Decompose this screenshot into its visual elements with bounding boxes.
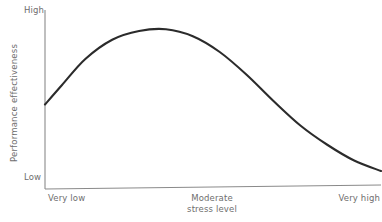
performance-stress-curve bbox=[45, 29, 381, 171]
x-axis-title-stress-level: stress level bbox=[174, 204, 250, 215]
chart-plot-area bbox=[0, 0, 382, 222]
x-axis-line bbox=[45, 185, 381, 189]
x-axis-tick-moderate: Moderate stress level bbox=[174, 193, 250, 215]
y-axis-tick-high: High bbox=[24, 5, 44, 16]
y-axis-title: Performance effectiveness bbox=[9, 43, 19, 163]
x-axis-tick-moderate-line1: Moderate bbox=[174, 193, 250, 204]
x-axis-tick-very-high: Very high bbox=[300, 193, 380, 204]
chart-container: High Low Very low Moderate stress level … bbox=[0, 0, 382, 222]
y-axis-tick-low: Low bbox=[24, 172, 41, 183]
x-axis-tick-very-low: Very low bbox=[48, 193, 85, 204]
